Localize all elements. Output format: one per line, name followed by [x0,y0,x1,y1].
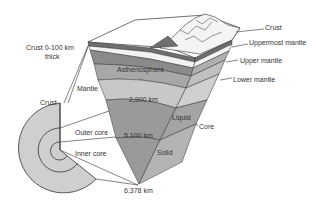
label-inner-core: Inner core [75,150,107,157]
earth-layers-diagram: Crust Uppermost mantle Upper mantle Lowe… [0,0,327,209]
diagram-canvas: Crust Uppermost mantle Upper mantle Lowe… [0,0,327,209]
earth-wedge [88,14,240,184]
label-liquid: Liquid [172,114,191,122]
label-mantle: Mantle [77,85,98,92]
label-crust-thickness-line1: Crust 0-100 km [26,44,74,51]
label-crust-right: Crust [265,24,282,31]
cross-section-mantle-ring [19,103,96,193]
label-outer-core: Outer core [75,129,108,136]
label-upper-mantle: Upper mantle [240,57,282,65]
label-solid: Solid [157,149,173,156]
label-crust-thickness-line2: thick [45,53,60,60]
label-depth-5100: 5,100 km [124,132,153,139]
label-crust-left: Crust [40,99,57,106]
core-cross-section [19,103,96,193]
label-asthenosphere: Asthenosphere [117,66,164,74]
label-lower-mantle: Lower mantle [233,76,275,83]
label-depth-2900: 2,900 km [129,96,158,103]
label-depth-6378: 6,378 km [124,187,153,194]
label-core: Core [199,123,214,130]
label-uppermost-mantle: Uppermost mantle [249,39,306,47]
